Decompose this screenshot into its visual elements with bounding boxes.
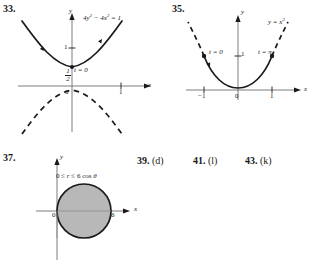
short-answer-43: 43. (k) (245, 155, 272, 166)
figure-35-parabola (182, 8, 310, 104)
figure-33-hyperbola (10, 8, 160, 140)
figure-37-origin-label: 0 (52, 211, 56, 219)
figure-37-y-axis-label: y (60, 153, 63, 161)
figure-35-start-label: t = 0 (209, 48, 223, 56)
figure-33-origin-label: 0 (65, 88, 69, 96)
short-answer-39: 39. (d) (137, 155, 164, 166)
short-answer-41-number: 41. (193, 155, 206, 166)
short-answer-39-value: (d) (152, 155, 164, 166)
short-answer-39-number: 39. (137, 155, 150, 166)
short-answer-43-number: 43. (245, 155, 258, 166)
figure-37-x-axis-label: x (134, 205, 137, 213)
figure-35-y-axis-label: y (241, 8, 244, 16)
figure-33-x-axis-label: x (148, 81, 151, 89)
figure-33-x-tick-1: 1 (119, 88, 123, 96)
figure-35-equation: y = x2 (268, 17, 285, 26)
figure-33-equation: 4y2 − 4x2 = 1 (83, 13, 121, 22)
figure-35-origin-label: 0 (235, 92, 239, 100)
figure-37-inequality: 0 ≤ r ≤ 6 cos θ (56, 172, 97, 180)
figure-35-x-tick-neg1: −1 (198, 92, 205, 100)
short-answer-41-value: (l) (208, 155, 217, 166)
figure-37-x-tick-6: 6 (111, 211, 115, 219)
figure-35-end-label: t = π (258, 48, 272, 56)
short-answer-41: 41. (l) (193, 155, 217, 166)
figure-33-vertex-value: 1 2 (64, 68, 72, 83)
figure-35-y-tick-1: 1 (241, 50, 245, 58)
figure-35-x-axis-label: x (304, 85, 307, 93)
figure-33-vertex-denominator: 2 (64, 76, 72, 83)
figure-33-vertex-numerator: 1 (64, 68, 72, 75)
problem-number-37: 37. (3, 152, 16, 163)
figure-33-y-tick-1: 1 (64, 43, 68, 51)
figure-35-x-tick-1: 1 (270, 92, 274, 100)
figure-37-polar-region (30, 152, 150, 264)
figure-33-parameter-label: t = 0 (74, 66, 88, 74)
short-answer-43-value: (k) (260, 155, 272, 166)
figure-33-y-axis-label: y (69, 7, 72, 15)
